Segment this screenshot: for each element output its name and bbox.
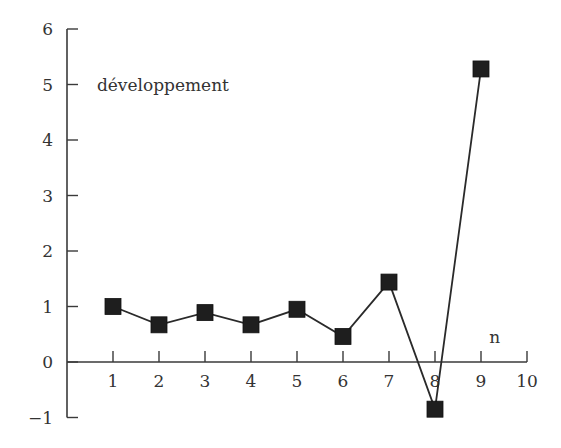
square-marker	[289, 301, 305, 317]
square-marker	[381, 274, 397, 290]
square-marker	[243, 317, 259, 333]
x-tick-label: 6	[338, 371, 349, 391]
y-tick-label: 4	[42, 130, 53, 150]
square-marker	[105, 299, 121, 315]
x-tick-label: 2	[154, 371, 165, 391]
square-marker	[151, 317, 167, 333]
x-axis: 12345678910	[67, 351, 538, 391]
x-tick-label: 7	[384, 371, 395, 391]
line-chart: −10123456 12345678910 développementn	[0, 0, 561, 448]
square-marker	[427, 401, 443, 417]
series-label: développement	[97, 75, 229, 95]
y-tick-label: −1	[28, 408, 53, 428]
x-tick-label: 9	[476, 371, 487, 391]
y-tick-label: 6	[42, 19, 53, 39]
y-axis: −10123456	[28, 19, 78, 428]
x-tick-label: 10	[516, 371, 538, 391]
x-tick-label: 4	[246, 371, 257, 391]
x-tick-label: 1	[108, 371, 119, 391]
y-tick-label: 1	[42, 297, 53, 317]
square-marker	[335, 328, 351, 344]
y-tick-label: 2	[42, 241, 53, 261]
x-tick-label: 5	[292, 371, 303, 391]
square-marker	[197, 305, 213, 321]
y-tick-label: 3	[42, 186, 53, 206]
y-tick-label: 5	[42, 75, 53, 95]
y-tick-label: 0	[42, 352, 53, 372]
x-axis-label: n	[489, 327, 500, 347]
square-marker	[473, 61, 489, 77]
x-tick-label: 3	[200, 371, 211, 391]
data-series	[105, 61, 489, 417]
